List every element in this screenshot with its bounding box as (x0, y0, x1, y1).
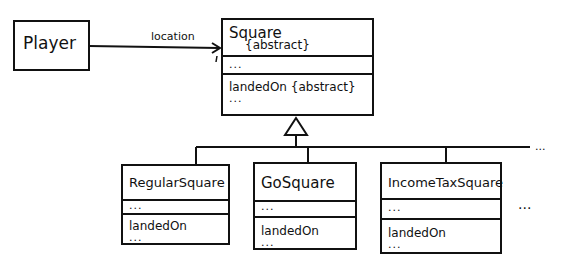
attributes: ... (255, 202, 355, 218)
association-label: location (151, 30, 195, 43)
method: landedOn (388, 226, 494, 240)
more-methods: ... (129, 233, 222, 243)
class-regular-square[interactable]: RegularSquare ... landedOn ... (121, 164, 230, 245)
class-name: IncomeTaxSquare (382, 164, 500, 200)
method: landedOn {abstract} (229, 80, 366, 94)
attributes: ... (123, 201, 228, 215)
more-methods: ... (388, 240, 494, 250)
class-name: GoSquare (255, 164, 355, 202)
more-classes-ellipsis: ... (518, 196, 531, 212)
class-square[interactable]: Square {abstract} ... landedOn {abstract… (221, 18, 374, 116)
stereotype: {abstract} (229, 38, 366, 52)
class-player[interactable]: Player (13, 20, 90, 71)
class-name: RegularSquare (123, 166, 228, 201)
more-methods: ... (229, 94, 366, 104)
more-methods: ... (261, 238, 349, 248)
attributes: ... (382, 200, 500, 220)
attributes: ... (223, 57, 372, 75)
method: landedOn (129, 219, 222, 233)
bus-continuation: ... (535, 140, 546, 153)
class-income-tax-square[interactable]: IncomeTaxSquare ... landedOn ... (380, 162, 502, 254)
class-go-square[interactable]: GoSquare ... landedOn ... (253, 162, 357, 250)
class-name: Player (15, 22, 88, 64)
